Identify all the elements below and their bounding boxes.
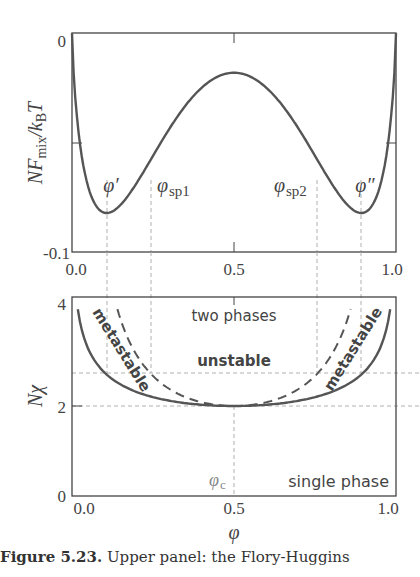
upper-ylabel: NFmix/kBT bbox=[24, 100, 49, 185]
svg-text:φ: φ bbox=[209, 470, 219, 490]
lower-xtick-05: 0.5 bbox=[223, 499, 244, 518]
upper-xtick-05: 0.5 bbox=[223, 260, 244, 279]
upper-guide-lines bbox=[107, 180, 361, 252]
lower-ylabel: Nχ bbox=[24, 384, 47, 408]
lower-guide-lines bbox=[72, 252, 420, 496]
caption-text: Upper panel: the Flory-Huggins bbox=[102, 548, 350, 566]
lower-xtick-0: 0.0 bbox=[73, 499, 94, 518]
region-metastable-left: metastable bbox=[89, 305, 155, 395]
upper-xtick-0: 0.0 bbox=[65, 260, 86, 279]
label-phi-sp1: φ sp1 bbox=[157, 174, 190, 199]
caption-number: Figure 5.23. bbox=[0, 548, 102, 566]
upper-ticks bbox=[72, 33, 396, 252]
free-energy-curve bbox=[72, 33, 396, 213]
upper-xtick-1: 1.0 bbox=[381, 260, 402, 279]
label-phi-double-prime: φ″ bbox=[355, 174, 375, 197]
label-phi-prime: φ′ bbox=[103, 174, 119, 197]
lower-ytick-4: 4 bbox=[58, 295, 67, 314]
svg-text:φ: φ bbox=[274, 174, 285, 197]
svg-text:c: c bbox=[220, 477, 226, 492]
label-phi-c: φ c bbox=[209, 470, 226, 492]
region-unstable: unstable bbox=[197, 352, 271, 370]
svg-text:Nχ: Nχ bbox=[24, 384, 47, 408]
region-single-phase: single phase bbox=[288, 472, 389, 491]
upper-plot-frame bbox=[72, 33, 396, 252]
svg-text:φ: φ bbox=[157, 174, 168, 197]
lower-ytick-0: 0 bbox=[58, 487, 67, 506]
figure: 0 -0.1 0.0 0.5 1.0 φ′ φ sp1 φ sp2 φ″ NFm… bbox=[0, 0, 420, 577]
region-two-phases: two phases bbox=[191, 307, 276, 325]
svg-text:NFmix/kBT: NFmix/kBT bbox=[24, 100, 49, 185]
upper-panel: 0 -0.1 0.0 0.5 1.0 φ′ φ sp1 φ sp2 φ″ NFm… bbox=[24, 32, 403, 279]
svg-text:sp2: sp2 bbox=[286, 183, 307, 199]
lower-panel: 4 2 0 0.0 0.5 1.0 φ Nχ two phases unstab… bbox=[24, 252, 420, 544]
lower-xlabel: φ bbox=[228, 521, 239, 544]
lower-ytick-2: 2 bbox=[58, 398, 67, 417]
lower-xtick-1: 1.0 bbox=[377, 499, 398, 518]
label-phi-sp2: φ sp2 bbox=[274, 174, 307, 199]
lower-plot-frame bbox=[72, 297, 396, 496]
svg-text:sp1: sp1 bbox=[169, 183, 190, 199]
figure-caption: Figure 5.23. Upper panel: the Flory-Hugg… bbox=[0, 548, 420, 566]
upper-ytick-0: 0 bbox=[58, 32, 67, 51]
